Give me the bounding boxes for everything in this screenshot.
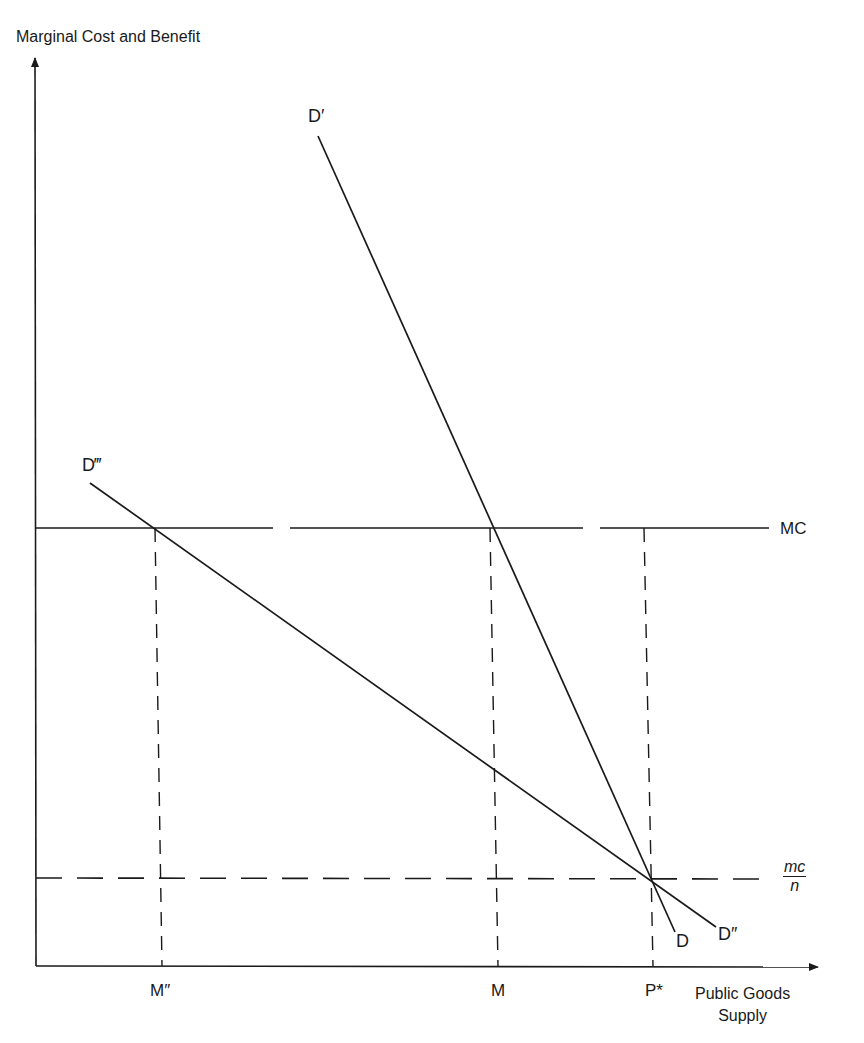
mc-over-n-line — [36, 878, 770, 879]
x-axis-label-line2: Supply — [695, 1005, 790, 1027]
m-double-prime-tick-label: M″ — [150, 982, 170, 999]
d-label: D — [676, 932, 689, 950]
d-double-prime-label: D″ — [718, 925, 737, 943]
diagram-canvas — [0, 0, 864, 1043]
mc-over-n-denominator: n — [783, 877, 806, 895]
m-tick-label: M — [491, 982, 505, 999]
y-axis — [35, 58, 36, 966]
mc-over-n-numerator: mc — [783, 858, 806, 877]
p-star-dropline — [644, 528, 653, 966]
m-dropline — [490, 528, 498, 966]
d-triple-prime-label: D‴ — [82, 456, 101, 474]
x-axis — [36, 966, 818, 967]
flat-demand-curve — [90, 483, 716, 927]
y-axis-label: Marginal Cost and Benefit — [16, 29, 200, 45]
x-axis-label: Public Goods Supply — [695, 983, 790, 1026]
mc-label: MC — [780, 520, 806, 537]
steep-demand-curve — [318, 136, 675, 932]
mc-over-n-label: mc n — [783, 858, 806, 894]
d-prime-label: D′ — [308, 107, 324, 125]
p-star-tick-label: P* — [645, 982, 663, 999]
x-axis-label-line1: Public Goods — [695, 983, 790, 1005]
m-double-prime-dropline — [155, 528, 162, 966]
